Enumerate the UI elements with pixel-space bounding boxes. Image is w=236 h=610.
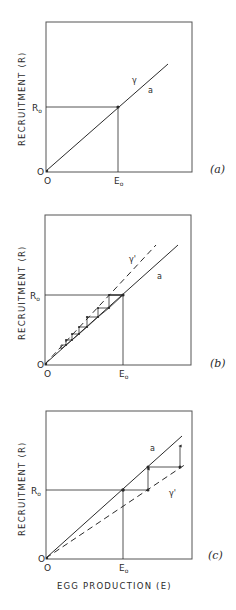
panel-label: (b) [210,357,226,370]
gamma-prime-line [46,464,186,558]
e0-label: Eo [114,176,124,187]
panel-label: (a) [210,163,225,176]
panel-c: RECRUITMENT (R) Ro O O Eo a γ' EGG PRODU… [17,411,223,591]
panel-a: RECRUITMENT (R) Ro O O Eo γ a (a) [17,22,225,187]
r0-label: Ro [30,291,40,302]
r0-label: Ro [32,103,42,114]
gamma-prime-line [45,245,156,364]
origin-x-label: O [44,369,51,379]
replacement-line-a [46,64,168,171]
e0-label: Eo [119,369,129,380]
replacement-line-a [46,436,182,558]
origin-x-label: O [44,563,51,573]
e0-label: Eo [119,563,129,574]
y-axis-label: RECRUITMENT (R) [17,51,27,146]
y-axis-label: RECRUITMENT (R) [17,245,27,340]
curve-label-gamma: γ [132,76,137,85]
curve-label-gamma-prime: γ' [129,255,136,264]
plot-frame [46,22,192,172]
equilibrium-point [116,105,119,108]
panel-b: RECRUITMENT (R) Ro O O Eo [17,215,226,380]
origin-point [46,170,48,172]
x-axis-label: EGG PRODUCTION (E) [57,581,172,591]
origin-point [46,557,48,559]
y-axis-label: RECRUITMENT (R) [17,441,27,536]
curve-label-a: a [150,444,155,453]
curve-label-gamma-prime: γ' [169,489,176,498]
panel-label: (c) [208,549,223,562]
plot-frame [46,411,192,559]
curve-label-a: a [148,86,153,95]
r0-label: Ro [31,486,41,497]
plot-frame [45,215,191,365]
origin-x-label: O [44,176,51,186]
figure-canvas: RECRUITMENT (R) Ro O O Eo γ a (a) RECRUI… [0,0,236,610]
origin-point [45,363,47,365]
curve-label-a: a [157,272,162,281]
